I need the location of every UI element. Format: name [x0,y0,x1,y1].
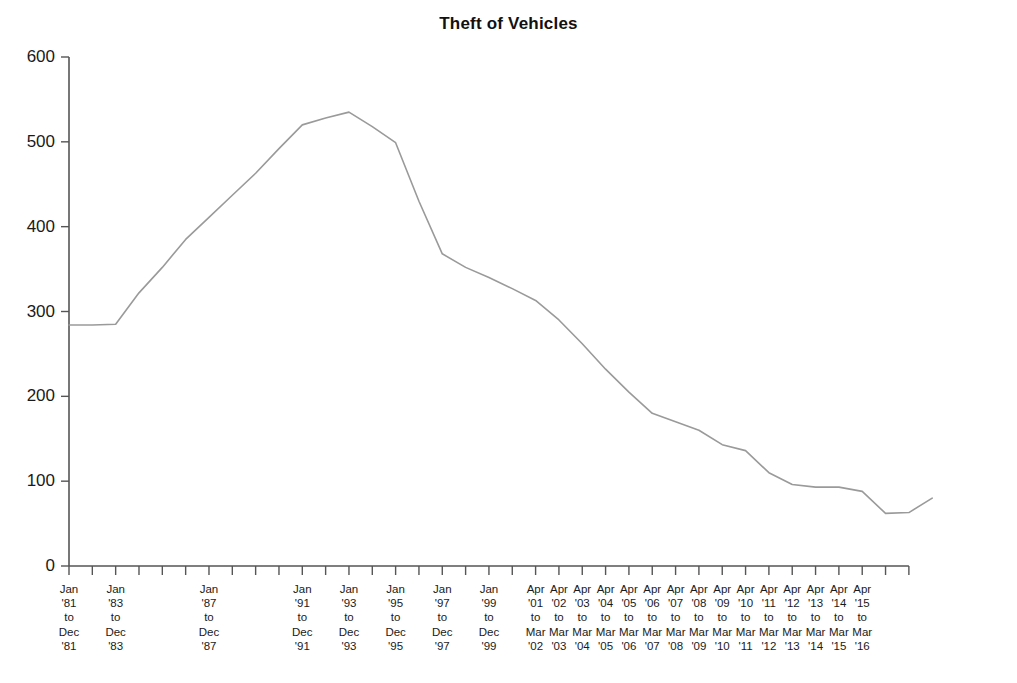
data-series-line [69,112,932,513]
line-chart-plot [0,0,1017,683]
y-tick-label: 200 [3,386,55,406]
x-tick-label: Jan '99 to Dec '99 [469,582,509,653]
y-tick-label: 400 [3,217,55,237]
x-tick-label: Jan '97 to Dec '97 [422,582,462,653]
y-tick-label: 600 [3,47,55,67]
x-tick-label: Jan '95 to Dec '95 [376,582,416,653]
chart-axes [69,57,909,566]
chart-container: Theft of Vehicles 0100200300400500600 Ja… [0,0,1017,683]
x-tick-label: Jan '81 to Dec '81 [49,582,89,653]
x-tick-label: Jan '83 to Dec '83 [96,582,136,653]
axis-ticks [61,57,909,575]
x-tick-label: Jan '87 to Dec '87 [189,582,229,653]
y-tick-label: 0 [3,556,55,576]
x-tick-label: Jan '93 to Dec '93 [329,582,369,653]
y-tick-label: 300 [3,302,55,322]
x-tick-label: Apr '15 to Mar '16 [842,582,882,653]
x-tick-label: Jan '91 to Dec '91 [282,582,322,653]
y-tick-label: 500 [3,132,55,152]
y-tick-label: 100 [3,471,55,491]
